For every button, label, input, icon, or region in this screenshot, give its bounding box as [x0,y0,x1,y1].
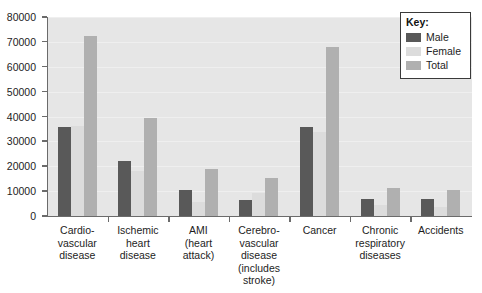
legend-item-total: Total [406,59,465,71]
x-axis-label-line: disease [47,249,108,262]
bar-female [374,205,387,216]
x-tick-mark [168,216,170,222]
x-axis-label-line: vascular [47,237,108,250]
x-axis-label: Cerebro-vasculardisease(includesstroke) [229,224,290,287]
legend-swatch-total [406,61,421,70]
bar-group [289,17,350,216]
legend-label-total: Total [426,60,448,71]
x-axis-label: AMI(heartattack) [168,224,229,262]
bar-female [71,126,84,216]
bar-total [387,188,400,216]
legend: Key: Male Female Total [400,12,471,79]
y-tick-label: 50000 [7,87,36,97]
bar-group [229,17,290,216]
x-axis-label-line: Cardio- [47,224,108,237]
bar-chart: 0100002000030000400005000060000700008000… [0,0,482,293]
x-axis-label: Chronicrespiratorydiseases [350,224,411,262]
y-tick-label: 40000 [7,112,36,122]
x-axis-label-line: heart [108,237,169,250]
bar-group [168,17,229,216]
x-axis-label-line: Cerebro- [229,224,290,237]
x-axis-label-line: Accidents [410,224,471,237]
y-tick-label: 0 [30,211,36,221]
bar-male [239,200,252,216]
x-axis-label-line: (heart [168,237,229,250]
bar-male [118,161,131,216]
x-axis-label-line: stroke) [229,274,290,287]
bar-female [192,202,205,216]
legend-label-female: Female [426,46,461,57]
bar-total [447,190,460,216]
x-tick-mark [108,216,110,222]
bar-female [252,193,265,216]
x-axis-label-line: attack) [168,249,229,262]
x-axis-label-line: respiratory [350,237,411,250]
y-tick-label: 80000 [7,12,36,22]
legend-swatch-male [406,33,421,42]
x-axis-label-line: Chronic [350,224,411,237]
bar-male [421,199,434,216]
x-axis-label: Cardio-vasculardisease [47,224,108,262]
bar-total [84,36,97,216]
y-tick-label: 20000 [7,161,36,171]
bar-total [265,178,278,216]
x-axis-label-line: Ischemic [108,224,169,237]
x-axis-label-line: vascular [229,237,290,250]
bar-female [434,207,447,216]
bar-total [205,169,218,216]
legend-label-male: Male [426,32,449,43]
bar-female [131,171,144,216]
bar-female [313,132,326,216]
x-axis-ticks [47,216,471,224]
legend-swatch-female [406,47,421,56]
x-axis-label-line: diseases [350,249,411,262]
x-tick-mark [410,216,412,222]
x-axis-label-line: AMI [168,224,229,237]
bar-male [300,127,313,216]
x-axis-label: Ischemicheartdisease [108,224,169,262]
x-tick-mark [350,216,352,222]
bar-total [144,118,157,216]
x-tick-mark [229,216,231,222]
y-axis: 0100002000030000400005000060000700008000… [0,0,43,293]
x-axis-label-line: (includes [229,262,290,275]
bar-male [58,127,71,216]
x-axis-label: Accidents [410,224,471,237]
bar-total [326,47,339,216]
y-tick-label: 60000 [7,62,36,72]
x-tick-mark [289,216,291,222]
x-axis-label-line: Cancer [289,224,350,237]
legend-item-female: Female [406,45,465,57]
y-tick-label: 10000 [7,186,36,196]
x-axis-labels: Cardio-vasculardiseaseIschemicheartdisea… [47,224,471,293]
x-axis-label: Cancer [289,224,350,237]
bar-group [108,17,169,216]
legend-title: Key: [406,17,465,28]
y-tick-label: 30000 [7,136,36,146]
x-axis-label-line: disease [229,249,290,262]
bar-male [179,190,192,216]
bar-male [361,199,374,216]
x-axis-label-line: disease [108,249,169,262]
bar-group [47,17,108,216]
y-tick-label: 70000 [7,37,36,47]
legend-item-male: Male [406,31,465,43]
